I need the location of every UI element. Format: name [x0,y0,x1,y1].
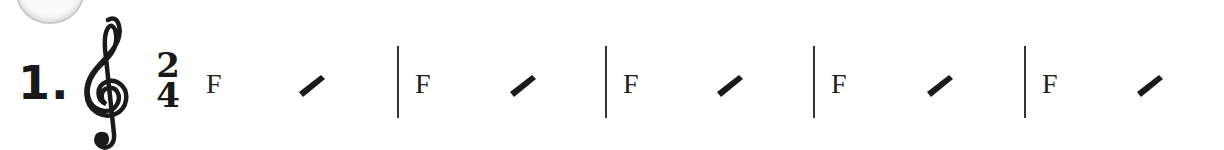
exercise-badge-circle [16,0,84,24]
slash-beat-icon [299,75,327,97]
time-signature: 2 4 [152,50,184,110]
slash-beat-icon [927,75,955,97]
barline [397,46,399,118]
chord-symbol: F [415,70,431,98]
time-signature-bottom: 4 [152,80,184,110]
slash-beat-icon [1137,75,1165,97]
chord-symbol: F [1042,70,1058,98]
treble-clef-icon [78,14,134,150]
barline [813,46,815,118]
chord-symbol: F [831,70,847,98]
barline [605,46,607,118]
exercise-number: 1. [18,60,69,106]
barline [1024,46,1026,118]
chord-symbol: F [206,70,222,98]
chord-symbol: F [623,70,639,98]
slash-beat-icon [510,75,538,97]
slash-beat-icon [717,75,745,97]
